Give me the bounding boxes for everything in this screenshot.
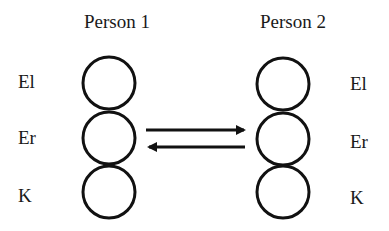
person-1-circles <box>83 57 135 218</box>
person-2-circle-k <box>257 166 309 218</box>
diagram-canvas <box>0 0 389 231</box>
person-1-circle-el <box>83 57 135 109</box>
person-1-circle-k <box>83 166 135 218</box>
person-1-circle-er <box>83 112 135 164</box>
exchange-arrows <box>146 130 245 147</box>
person-2-circle-el <box>257 58 309 110</box>
person-2-circles <box>257 58 309 218</box>
person-2-circle-er <box>257 113 309 165</box>
